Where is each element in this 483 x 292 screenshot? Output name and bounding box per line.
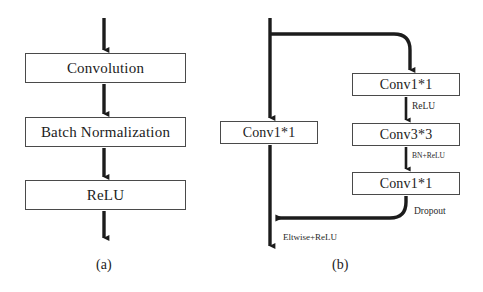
panel-b-caption: (b) <box>332 258 348 272</box>
edge-label-relu: ReLU <box>412 102 435 112</box>
panel-b-merge-path <box>276 196 406 218</box>
edge-label-eltwise-relu: Eltwise+ReLU <box>283 233 337 242</box>
panel-a-caption: (a) <box>96 258 112 272</box>
block-residual-conv1x1-second-label: Conv1*1 <box>380 177 433 191</box>
block-relu: ReLU <box>25 180 186 210</box>
block-relu-label: ReLU <box>87 188 124 203</box>
edge-label-dropout: Dropout <box>414 207 446 217</box>
block-residual-conv3x3-label: Conv3*3 <box>380 128 433 142</box>
block-residual-conv1x1-first: Conv1*1 <box>352 73 460 96</box>
block-convolution-label: Convolution <box>67 61 144 76</box>
block-batch-normalization: Batch Normalization <box>25 117 186 147</box>
block-convolution: Convolution <box>25 53 186 83</box>
block-residual-conv1x1-second: Conv1*1 <box>352 172 460 195</box>
panel-b-split-path <box>270 34 410 70</box>
block-batch-normalization-label: Batch Normalization <box>41 125 170 140</box>
block-shortcut-conv1x1: Conv1*1 <box>220 121 318 144</box>
block-residual-conv1x1-first-label: Conv1*1 <box>380 78 433 92</box>
block-residual-conv3x3: Conv3*3 <box>352 123 460 146</box>
block-shortcut-conv1x1-label: Conv1*1 <box>243 126 296 140</box>
figure-root: Convolution Batch Normalization ReLU (a)… <box>0 0 483 292</box>
edge-label-bn-relu: BN+ReLU <box>412 152 445 160</box>
